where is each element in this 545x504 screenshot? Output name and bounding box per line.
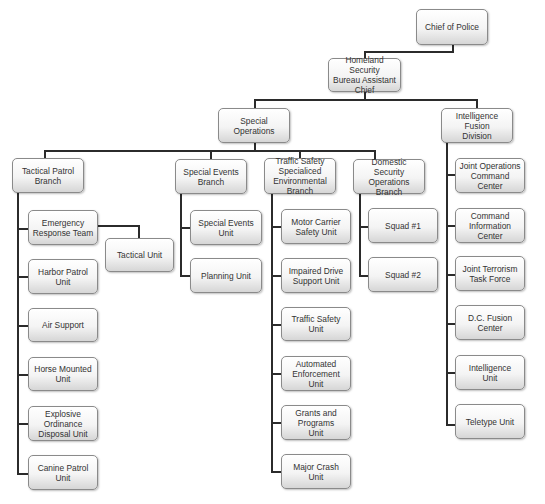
node-joint-operations-command-center[interactable]: Joint Operations Command Center: [455, 158, 525, 193]
connector-line: [138, 225, 140, 238]
node-emergency-response-team[interactable]: Emergency Response Team: [28, 210, 98, 245]
node-intelligence-unit[interactable]: Intelligence Unit: [455, 355, 525, 390]
node-major-crash-unit[interactable]: Major Crash Unit: [281, 454, 351, 489]
connector-line: [271, 194, 273, 473]
node-dc-fusion-center[interactable]: D.C. Fusion Center: [455, 305, 525, 340]
node-special-events-unit[interactable]: Special Events Unit: [190, 210, 262, 245]
node-intelligence-fusion-division[interactable]: Intelligence Fusion Division: [441, 108, 513, 143]
node-domestic-security-branch[interactable]: Domestic Security Operations Branch: [353, 159, 425, 194]
node-squad-1[interactable]: Squad #1: [368, 208, 438, 243]
connector-line: [359, 194, 361, 276]
node-motor-carrier-safety-unit[interactable]: Motor Carrier Safety Unit: [281, 209, 351, 244]
connector-line: [17, 193, 19, 475]
node-horse-mounted-unit[interactable]: Horse Mounted Unit: [28, 357, 98, 391]
node-traffic-safety-unit[interactable]: Traffic Safety Unit: [281, 307, 351, 341]
node-automated-enforcement-unit[interactable]: Automated Enforcement Unit: [281, 356, 351, 391]
node-impaired-drive-support-unit[interactable]: Impaired Drive Support Unit: [281, 258, 351, 293]
node-planning-unit[interactable]: Planning Unit: [190, 258, 262, 293]
node-tactical-unit[interactable]: Tactical Unit: [105, 238, 174, 272]
node-traffic-safety-branch[interactable]: Traffic Safety Specialiced Environmental…: [264, 158, 336, 194]
connector-line: [446, 143, 448, 426]
node-command-information-center[interactable]: Command Information Center: [455, 208, 525, 243]
node-special-operations[interactable]: Special Operations: [218, 108, 290, 143]
node-harbor-patrol-unit[interactable]: Harbor Patrol Unit: [28, 259, 98, 294]
connector-line: [254, 99, 477, 101]
node-canine-patrol-unit[interactable]: Canine Patrol Unit: [28, 455, 98, 490]
node-special-events-branch[interactable]: Special Events Branch: [175, 159, 247, 194]
node-chief-of-police[interactable]: Chief of Police: [416, 9, 488, 45]
node-tactical-patrol-branch[interactable]: Tactical Patrol Branch: [12, 158, 84, 193]
node-teletype-unit[interactable]: Teletype Unit: [455, 404, 525, 439]
node-grants-and-programs-unit[interactable]: Grants and Programs Unit: [281, 405, 351, 440]
node-explosive-ordinance-disposal-unit[interactable]: Explosive Ordinance Disposal Unit: [28, 406, 98, 441]
node-air-support[interactable]: Air Support: [28, 308, 98, 342]
connector-line: [97, 225, 139, 227]
node-joint-terrorism-task-force[interactable]: Joint Terrorism Task Force: [455, 256, 525, 291]
node-squad-2[interactable]: Squad #2: [368, 257, 438, 292]
connector-line: [180, 194, 182, 276]
connector-line: [44, 150, 46, 158]
connector-line: [476, 99, 478, 108]
node-homeland-security-assistant-chief[interactable]: Homeland Security Bureau Assistant Chief: [328, 58, 401, 92]
org-chart: Chief of Police Homeland Security Bureau…: [0, 0, 545, 504]
connector-line: [364, 51, 454, 53]
